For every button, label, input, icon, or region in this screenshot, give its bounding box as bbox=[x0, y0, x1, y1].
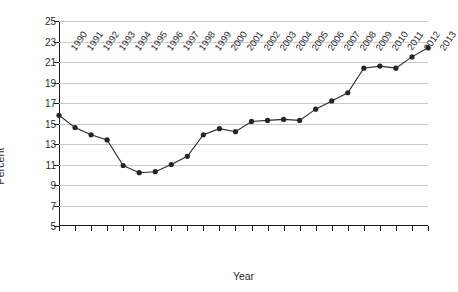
x-tick-mark bbox=[59, 226, 60, 231]
x-tick-mark bbox=[235, 226, 236, 231]
series-line bbox=[59, 48, 428, 173]
data-point bbox=[217, 126, 222, 131]
x-tick-mark bbox=[155, 226, 156, 231]
data-point bbox=[56, 113, 61, 118]
x-tick-mark bbox=[187, 226, 188, 231]
x-tick-mark bbox=[284, 226, 285, 231]
data-point bbox=[265, 118, 270, 123]
data-point bbox=[361, 66, 366, 71]
x-tick-mark bbox=[332, 226, 333, 231]
data-point bbox=[377, 64, 382, 69]
x-tick-mark bbox=[396, 226, 397, 231]
y-tick-label: 21 bbox=[45, 57, 56, 68]
data-point bbox=[153, 169, 158, 174]
x-tick-mark bbox=[91, 226, 92, 231]
series-plot bbox=[59, 21, 428, 226]
x-axis-title: Year bbox=[59, 270, 428, 282]
data-point bbox=[169, 162, 174, 167]
data-point bbox=[249, 119, 254, 124]
x-tick-mark bbox=[300, 226, 301, 231]
data-point bbox=[137, 170, 142, 175]
x-tick-mark bbox=[139, 226, 140, 231]
y-axis-title: Percent bbox=[0, 0, 20, 292]
y-tick-label: 13 bbox=[45, 139, 56, 150]
plot-area: 5791113151719212325 19901991199219931994… bbox=[59, 21, 428, 226]
y-axis-title-text: Percent bbox=[0, 148, 6, 185]
data-point bbox=[121, 163, 126, 168]
x-tick-mark bbox=[268, 226, 269, 231]
x-tick-mark bbox=[123, 226, 124, 231]
data-point bbox=[297, 118, 302, 123]
x-tick-mark bbox=[348, 226, 349, 231]
data-point bbox=[345, 90, 350, 95]
y-tick-label: 11 bbox=[46, 159, 56, 170]
x-tick-mark bbox=[219, 226, 220, 231]
y-tick-label: 5 bbox=[50, 221, 56, 232]
y-tick-label: 25 bbox=[45, 16, 56, 27]
data-point bbox=[425, 45, 430, 50]
data-point bbox=[329, 98, 334, 103]
x-tick-mark bbox=[252, 226, 253, 231]
data-point bbox=[233, 129, 238, 134]
x-tick-mark bbox=[412, 226, 413, 231]
y-tick-label: 19 bbox=[45, 77, 56, 88]
x-tick-mark bbox=[203, 226, 204, 231]
x-tick-label: 2013 bbox=[437, 29, 458, 53]
x-tick-mark bbox=[75, 226, 76, 231]
x-tick-mark bbox=[380, 226, 381, 231]
data-point bbox=[201, 132, 206, 137]
y-tick-label: 17 bbox=[45, 98, 56, 109]
y-tick-label: 9 bbox=[50, 180, 56, 191]
y-tick-label: 7 bbox=[50, 200, 56, 211]
data-point bbox=[409, 54, 414, 59]
data-point bbox=[88, 132, 93, 137]
data-point bbox=[185, 154, 190, 159]
x-tick-mark bbox=[171, 226, 172, 231]
x-tick-mark bbox=[107, 226, 108, 231]
data-point bbox=[313, 107, 318, 112]
x-tick-mark bbox=[316, 226, 317, 231]
y-tick-label: 23 bbox=[45, 36, 56, 47]
x-tick-mark bbox=[428, 226, 429, 231]
data-point bbox=[393, 66, 398, 71]
data-point bbox=[72, 125, 77, 130]
data-point bbox=[281, 117, 286, 122]
x-tick-mark bbox=[364, 226, 365, 231]
y-tick-label: 15 bbox=[45, 118, 56, 129]
data-point bbox=[105, 137, 110, 142]
